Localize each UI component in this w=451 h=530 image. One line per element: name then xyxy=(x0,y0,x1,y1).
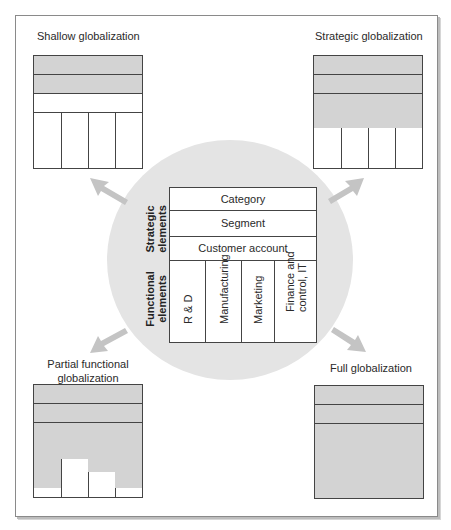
strategic-elements-label: Strategicelements xyxy=(144,194,170,264)
functional-cols: R & D Manufacturing Marketing Finance an… xyxy=(170,261,316,342)
functional-cols xyxy=(34,112,142,168)
functional-cols xyxy=(314,112,422,168)
functional-elements-label: Functionalelements xyxy=(144,264,170,334)
arrow-bottom-left-icon xyxy=(90,328,128,353)
strategic-row-customer-account xyxy=(315,424,423,443)
functional-col-manufacturing xyxy=(61,441,89,497)
arrow-top-left-icon xyxy=(90,178,128,205)
strategic-row-customer-account xyxy=(34,94,142,113)
functional-col-rnd xyxy=(314,112,342,168)
title-full-globalization: Full globalization xyxy=(330,362,412,374)
functional-col-finance xyxy=(115,112,142,168)
title-partial-functional-globalization: Partial functional globalization xyxy=(33,357,143,385)
organization-elements-table: Category Segment Customer account R & D … xyxy=(169,187,317,343)
functional-col-marketing xyxy=(88,112,116,168)
strategic-row-segment xyxy=(34,75,142,94)
title-line-2: globalization xyxy=(33,371,143,385)
functional-col-finance: Finance and control, IT xyxy=(275,261,316,342)
functional-col-manufacturing xyxy=(341,112,369,168)
arrow-top-right-icon xyxy=(328,178,364,204)
functional-col-rnd xyxy=(34,112,62,168)
functional-label-finance: Finance and control, IT xyxy=(284,251,308,312)
functional-cols xyxy=(315,442,423,498)
grid-partial-functional-globalization xyxy=(33,384,143,498)
functional-label-marketing: Marketing xyxy=(252,276,264,324)
strategic-row-category xyxy=(34,56,142,75)
strategic-row-category xyxy=(314,56,422,75)
functional-cols xyxy=(34,441,142,497)
arrow-bottom-right-icon xyxy=(331,327,366,352)
strategic-row-segment xyxy=(34,404,142,423)
title-line-1: Partial functional xyxy=(33,357,143,371)
strategic-row-customer-account xyxy=(34,423,142,442)
functional-col-finance xyxy=(396,442,423,498)
functional-col-finance xyxy=(395,112,422,168)
grid-strategic-globalization xyxy=(313,55,423,169)
title-strategic-globalization: Strategic globalization xyxy=(315,30,423,42)
grid-full-globalization xyxy=(314,385,424,499)
functional-col-rnd xyxy=(315,442,343,498)
title-shallow-globalization: Shallow globalization xyxy=(37,30,140,42)
strategic-row-category: Category xyxy=(170,188,316,211)
functional-col-marketing xyxy=(369,442,397,498)
functional-col-marketing: Marketing xyxy=(242,261,275,342)
grid-shallow-globalization xyxy=(33,55,143,169)
functional-label-rnd: R & D xyxy=(182,295,194,324)
functional-label-manufacturing: Manufacturing xyxy=(218,254,230,324)
functional-col-manufacturing xyxy=(61,112,89,168)
functional-col-marketing xyxy=(368,112,396,168)
strategic-row-segment xyxy=(315,405,423,424)
strategic-row-segment: Segment xyxy=(170,211,316,237)
functional-col-rnd xyxy=(34,441,62,497)
functional-col-marketing xyxy=(88,441,116,497)
strategic-row-segment xyxy=(314,75,422,94)
functional-col-manufacturing: Manufacturing xyxy=(206,261,242,342)
functional-col-rnd: R & D xyxy=(170,261,206,342)
strategic-row-customer-account xyxy=(314,94,422,113)
strategic-row-category xyxy=(34,385,142,404)
functional-col-finance xyxy=(115,441,142,497)
functional-col-manufacturing xyxy=(342,442,370,498)
strategic-row-category xyxy=(315,386,423,405)
